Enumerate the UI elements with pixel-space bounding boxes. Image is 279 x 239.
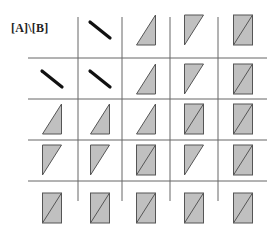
- triangle-lower-right-icon: [137, 104, 156, 134]
- triangle-upper-left-icon: [43, 145, 62, 175]
- triangle-lower-right-icon: [137, 15, 156, 45]
- slash-icon: [90, 71, 110, 87]
- triangle-upper-left-icon: [185, 145, 204, 175]
- slash-icon: [90, 22, 110, 38]
- set-difference-table: [A]\[B]: [0, 0, 279, 239]
- triangle-upper-left-icon: [91, 145, 110, 175]
- triangle-lower-right-icon: [91, 104, 110, 134]
- triangle-upper-left-icon: [185, 15, 204, 45]
- slash-icon: [42, 71, 62, 87]
- triangle-lower-right-icon: [43, 104, 62, 134]
- shape-grid: [0, 0, 279, 239]
- triangle-upper-left-icon: [185, 64, 204, 94]
- triangle-lower-right-icon: [137, 64, 156, 94]
